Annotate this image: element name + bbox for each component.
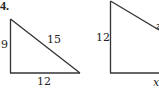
triangle-a: [10, 19, 80, 73]
triangles-diagram: [0, 0, 159, 90]
triangle-b: [110, 1, 159, 73]
problem-figure: 4. 9 15 12 12 x z: [0, 0, 159, 90]
triangle-a-bottom-label: 12: [37, 76, 51, 87]
triangle-b-left-label: 12: [96, 32, 110, 43]
triangle-a-left-label: 9: [1, 39, 8, 50]
triangle-b-hypotenuse-label: z: [156, 21, 159, 32]
triangle-b-bottom-label: x: [153, 77, 159, 88]
triangle-a-hypotenuse-label: 15: [47, 34, 61, 45]
